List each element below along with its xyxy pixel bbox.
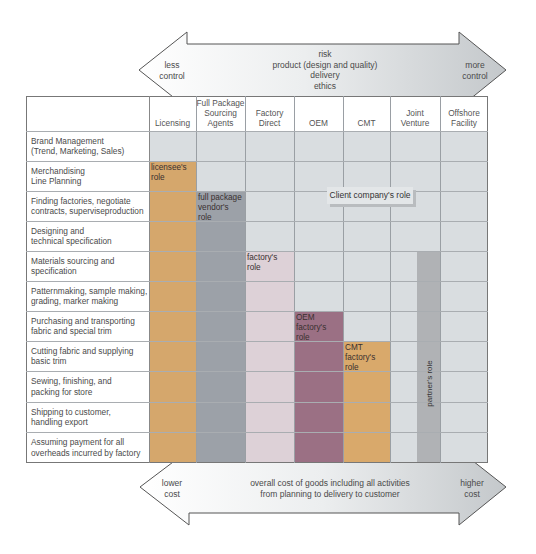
- row-label: Merchandising Line Planning: [26, 161, 149, 191]
- grid-line: [245, 96, 246, 463]
- column-header-licensing: Licensing: [149, 97, 196, 131]
- full-package-role-bar: [196, 191, 245, 462]
- row-label: Sewing, finishing, and packing for store: [26, 371, 149, 402]
- partner-role-label: partner's role: [425, 354, 434, 414]
- bottom-arrow-left-label: lower cost: [152, 478, 192, 499]
- row-label: Shipping to customer, handling export: [26, 402, 149, 432]
- bottom-arrow-center-label: overall cost of goods including all acti…: [215, 478, 445, 499]
- client-role-label: Client company's role: [327, 187, 413, 204]
- row-label: Finding factories, negotiate contracts, …: [26, 191, 149, 221]
- grid-line: [294, 96, 295, 463]
- row-label: Assuming payment for all overheads incur…: [26, 432, 149, 463]
- full-package-role-label: full package vendor's role: [198, 193, 242, 223]
- factory-direct-role-bar: [245, 251, 294, 462]
- row-label: Cutting fabric and supplying basic trim: [26, 341, 149, 371]
- top-arrow-right-label: more control: [455, 60, 495, 81]
- row-label: Brand Management (Trend, Marketing, Sale…: [26, 131, 149, 161]
- column-header-oem: OEM: [294, 97, 343, 131]
- oem-role-label: OEM factory's role: [296, 313, 326, 343]
- top-arrow-left-label: less control: [152, 60, 192, 81]
- row-label: Purchasing and transporting fabric and s…: [26, 311, 149, 341]
- grid-line: [196, 96, 197, 463]
- column-header-joint-venture: Joint Venture: [390, 97, 440, 131]
- grid-line: [440, 96, 441, 463]
- top-arrow-center-label: risk product (design and quality) delive…: [230, 49, 420, 91]
- grid-line: [149, 96, 150, 463]
- column-header-offshore: Offshore Facility: [440, 97, 488, 131]
- licensee-role-label: licensee's role: [151, 163, 187, 183]
- grid-line: [390, 96, 391, 463]
- row-label: Patternmaking, sample making, grading, m…: [26, 281, 149, 311]
- column-header-cmt: CMT: [343, 97, 390, 131]
- column-header-full-package: Full Package Sourcing Agents: [196, 97, 245, 131]
- factory-direct-role-label: factory's role: [247, 253, 277, 273]
- row-label: Designing and technical specification: [26, 221, 149, 251]
- bottom-arrow-right-label: higher cost: [452, 478, 492, 499]
- grid-line: [343, 96, 344, 463]
- cmt-role-label: CMT factory's role: [345, 343, 375, 373]
- column-header-factory-direct: Factory Direct: [245, 97, 294, 131]
- row-label: Materials sourcing and specification: [26, 251, 149, 281]
